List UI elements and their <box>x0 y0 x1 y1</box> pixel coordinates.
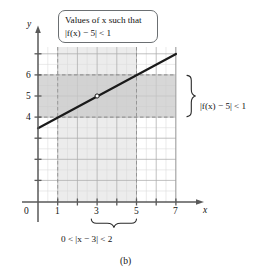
x-axis-arrow-icon <box>196 199 204 205</box>
callout-line-2: |f(x) − 5| < 1 <box>65 28 111 38</box>
x-tick-label-7: 7 <box>173 207 178 217</box>
x-tick-label-1: 1 <box>55 207 60 217</box>
right-brace-label: |f(x) − 5| < 1 <box>200 101 246 111</box>
y-tick-label-6: 6 <box>26 71 31 81</box>
x-axis-label: x <box>203 206 207 216</box>
callout-box: Values of x such that |f(x) − 5| < 1 <box>58 10 158 43</box>
callout-line-1: Values of x such that <box>65 15 142 25</box>
right-brace-icon <box>187 75 196 116</box>
y-axis-arrow-icon <box>35 26 41 34</box>
horizontal-shaded-band <box>38 75 176 117</box>
y-tick-label-5: 5 <box>26 92 31 102</box>
bottom-brace-icon <box>91 219 136 228</box>
panel-label: (b) <box>120 256 131 266</box>
origin-label: 0 <box>24 207 29 217</box>
x-tick-label-5: 5 <box>134 207 139 217</box>
x-tick-label-3: 3 <box>94 207 99 217</box>
vertical-shaded-band <box>58 47 137 202</box>
y-axis-label: y <box>27 20 31 30</box>
open-circle-point <box>95 94 99 98</box>
bottom-brace-label: 0 < |x − 3| < 2 <box>61 234 112 244</box>
y-tick-label-4: 4 <box>26 113 31 123</box>
